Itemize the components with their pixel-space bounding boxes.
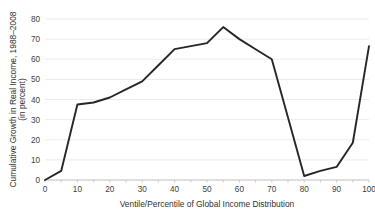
x-tick-label: 70: [267, 185, 277, 194]
x-tick-label: 40: [170, 185, 180, 194]
x-tick-label: 30: [138, 185, 148, 194]
x-axis-tick-labels: 0102030405060708090100: [43, 185, 375, 194]
y-tick-label: 30: [31, 116, 41, 125]
y-tick-label: 70: [31, 35, 41, 44]
y-tick-label: 40: [31, 96, 41, 105]
x-tick-label: 90: [332, 185, 342, 194]
data-series-line: [45, 27, 369, 180]
y-axis-title-line1: Cumulative Growth in Real Income, 1988–2…: [8, 11, 18, 187]
y-tick-label: 60: [31, 55, 41, 64]
elephant-curve-chart: 01020304050607080 0102030405060708090100…: [0, 0, 375, 222]
y-tick-label: 80: [31, 15, 41, 24]
x-tick-label: 80: [300, 185, 310, 194]
y-axis-tick-labels: 01020304050607080: [31, 15, 41, 185]
x-tick-label: 0: [43, 185, 48, 194]
y-tick-label: 20: [31, 136, 41, 145]
y-tick-label: 10: [31, 156, 41, 165]
chart-canvas: 01020304050607080 0102030405060708090100…: [0, 0, 375, 222]
x-tick-label: 50: [202, 185, 212, 194]
y-tick-label: 0: [35, 176, 40, 185]
x-axis-title: Ventile/Percentile of Global Income Dist…: [120, 199, 295, 209]
x-tick-label: 100: [362, 185, 375, 194]
y-axis-title-line2: (in percent): [17, 78, 27, 121]
x-tick-label: 10: [73, 185, 83, 194]
x-tick-label: 60: [235, 185, 245, 194]
x-tick-label: 20: [105, 185, 115, 194]
y-tick-label: 50: [31, 75, 41, 84]
